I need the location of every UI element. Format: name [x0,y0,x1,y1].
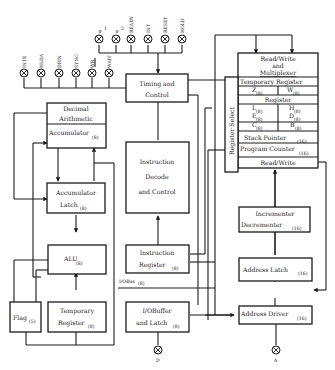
svg-text:(8): (8) [256,117,263,122]
instruction-decode-block: Instruction Decode and Control [126,142,189,213]
svg-text:(16): (16) [292,226,302,231]
svg-text:(5): (5) [29,319,36,324]
pins-top-left: INTE HLDA DBIN SYNC WR WAIT [20,53,113,77]
svg-text:2: 2 [121,26,124,31]
svg-text:Register: Register [139,261,166,269]
address-driver-block: Address Driver (16) [239,306,312,324]
pin-sync: SYNC [72,54,80,77]
pins-top-right: φ1 φ2 READY INT RESET HOLD [95,15,186,43]
svg-text:Program Counter: Program Counter [240,145,295,153]
svg-text:WAIT: WAIT [107,54,112,68]
svg-text:(8): (8) [256,126,263,131]
svg-text:(8): (8) [92,135,99,140]
io-bus-label: I/OBus (8) [119,279,145,286]
incrementer-decrementer-block: Incrementer Decrementer (16) [239,207,310,232]
pin-reset: RESET [161,16,169,43]
pin-hold: HOLD [178,18,186,43]
svg-text:Address Latch: Address Latch [242,266,288,273]
svg-text:Multiplexer: Multiplexer [260,69,297,77]
svg-text:(8): (8) [88,324,95,329]
svg-text:Temporary Register: Temporary Register [240,78,303,86]
flag-block: Flag (5) [10,302,41,332]
svg-text:(8): (8) [138,281,145,286]
svg-text:WR: WR [90,59,95,68]
alu-block: ALU (8) [48,245,106,274]
svg-text:φ: φ [114,29,119,33]
svg-text:and Control: and Control [138,188,175,195]
pin-wr: WR [88,58,96,77]
svg-text:1: 1 [104,26,107,31]
pin-inte: INTE [20,56,28,77]
timing-control-block: Timing and Control [126,74,188,102]
svg-text:A: A [273,358,278,363]
svg-text:Arithmetic: Arithmetic [58,115,93,122]
svg-text:Decimal: Decimal [63,105,89,112]
svg-text:(8): (8) [172,266,179,271]
svg-text:(16): (16) [298,271,308,276]
svg-text:RESET: RESET [163,16,168,33]
svg-text:Read/Write: Read/Write [260,55,296,62]
svg-text:I/OBuffer: I/OBuffer [142,307,171,314]
svg-text:φ: φ [97,29,102,33]
pin-d: D [154,346,162,363]
svg-text:Register Select: Register Select [228,106,236,155]
pin-hlda: HLDA [37,53,45,77]
svg-text:Control: Control [145,91,169,98]
svg-text:(8): (8) [80,206,87,211]
svg-text:INT: INT [146,23,151,33]
svg-text:and Latch: and Latch [136,319,167,326]
address-latch-block: Address Latch (16) [239,258,312,281]
svg-text:(16): (16) [299,151,309,156]
pin-phi2: φ2 [112,26,124,43]
svg-text:(8): (8) [173,324,180,329]
svg-text:Instruction: Instruction [140,249,175,256]
svg-text:Timing and: Timing and [139,80,175,88]
svg-text:Decrementer: Decrementer [241,221,282,228]
pin-phi1: φ1 [95,26,107,43]
block-diagram: INTE HLDA DBIN SYNC WR WAIT φ1 φ2 READY … [0,0,335,370]
svg-text:(8): (8) [294,109,301,114]
svg-text:and: and [272,62,284,69]
svg-text:D: D [156,358,160,363]
svg-text:Decode: Decode [145,173,169,180]
svg-text:I/OBus: I/OBus [119,279,135,284]
svg-text:Stack Pointer: Stack Pointer [244,134,286,141]
pin-int: INT [144,23,152,43]
pin-a: A [272,346,280,363]
svg-text:Register: Register [58,319,85,327]
temporary-register-block: Temporary Register (8) [48,302,106,332]
svg-text:Address Driver: Address Driver [240,310,288,317]
svg-text:INTE: INTE [22,56,27,68]
decimal-arithmetic-block: Decimal Arithmetic Accumulator (8) [47,103,106,148]
svg-text:(8): (8) [256,109,263,114]
svg-text:(16): (16) [297,316,307,321]
svg-text:Accumulator: Accumulator [48,129,89,136]
svg-text:READY: READY [129,15,134,33]
svg-text:Incrementer: Incrementer [255,210,294,217]
svg-text:Temporary: Temporary [60,307,94,315]
svg-text:Instruction: Instruction [140,158,175,165]
svg-text:SYNC: SYNC [74,54,79,68]
svg-text:(8): (8) [295,126,302,131]
svg-text:Read/Write: Read/Write [260,159,296,166]
svg-text:Flag: Flag [13,314,27,322]
svg-text:DBIN: DBIN [57,55,62,68]
svg-text:Register: Register [265,96,292,104]
pin-dbin: DBIN [55,55,63,77]
io-buffer-latch-block: I/OBuffer and Latch (8) [126,302,189,332]
pin-ready: READY [127,15,135,43]
pin-wait: WAIT [105,54,113,77]
instruction-register-block: Instruction Register (8) [126,245,189,273]
svg-text:Accumulator: Accumulator [55,189,96,196]
svg-text:(8): (8) [76,261,83,266]
accumulator-latch-block: Accumulator Latch (8) [47,183,105,213]
register-file-block: Read/Write and Multiplexer Register Sele… [225,53,318,172]
svg-text:HLDA: HLDA [39,53,44,68]
svg-text:HOLD: HOLD [180,18,185,33]
svg-text:Latch: Latch [60,201,78,208]
svg-text:(8): (8) [294,117,301,122]
